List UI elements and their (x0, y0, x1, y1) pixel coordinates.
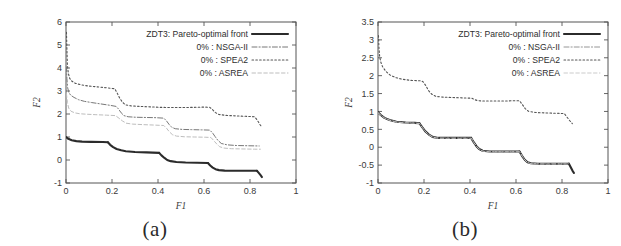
chart-a-plot: 00.20.40.60.81-10123456F1F2ZDT3: Pareto-… (32, 17, 299, 211)
series-line (419, 123, 471, 138)
panel-a: 00.20.40.60.81-10123456F1F2ZDT3: Pareto-… (0, 0, 310, 246)
panel-b-caption: (b) (310, 217, 620, 242)
x-tick-label: 0 (375, 186, 380, 196)
panel-a-caption: (a) (0, 217, 310, 242)
x-tick-label: 0.6 (198, 186, 211, 196)
y-tick-label: 0.5 (361, 125, 374, 135)
series-line (159, 153, 208, 163)
legend-label: 0% : NSGA-II (196, 42, 248, 52)
y-tick-label: 0 (369, 142, 374, 152)
x-tick-label: 0.2 (106, 186, 119, 196)
legend-label: ZDT3: Pareto-optimal front (146, 29, 248, 39)
legend: ZDT3: Pareto-optimal front0% : NSGA-II0%… (146, 29, 288, 78)
x-axis-title: F1 (175, 201, 187, 211)
y-tick-label: 1 (369, 107, 374, 117)
y-tick-label: -1 (54, 178, 62, 188)
y-tick-label: 2.5 (361, 53, 374, 63)
series-line (471, 138, 519, 152)
plot-frame (378, 22, 608, 183)
chart-a-svg: 00.20.40.60.81-10123456F1F2ZDT3: Pareto-… (0, 0, 310, 246)
series-line (378, 112, 569, 164)
y-tick-label: 3.5 (361, 17, 374, 27)
legend-label: 0% : NSGA-II (508, 42, 560, 52)
y-tick-label: 0 (57, 155, 62, 165)
figure-container: 00.20.40.60.81-10123456F1F2ZDT3: Pareto-… (0, 0, 621, 246)
series-line (569, 164, 574, 173)
y-tick-label: -1 (366, 178, 374, 188)
legend-label: 0% : SPEA2 (513, 55, 561, 65)
y-tick-label: 6 (57, 17, 62, 27)
chart-b-plot: 00.20.40.60.81-1-0.500.511.522.533.5F1F2… (344, 17, 611, 211)
x-tick-label: 0.8 (244, 186, 257, 196)
x-tick-label: 1 (293, 186, 298, 196)
x-tick-label: 1 (605, 186, 610, 196)
y-tick-label: 2 (369, 71, 374, 81)
x-tick-label: 0 (63, 186, 68, 196)
x-axis-title: F1 (487, 201, 499, 211)
series-line (208, 163, 257, 171)
y-tick-label: 3 (369, 35, 374, 45)
y-tick-label: 3 (57, 86, 62, 96)
y-axis-title: F2 (344, 97, 354, 109)
y-tick-label: -0.5 (358, 160, 374, 170)
x-tick-label: 0.8 (556, 186, 569, 196)
legend-label: ZDT3: Pareto-optimal front (458, 29, 560, 39)
panel-b: 00.20.40.60.81-1-0.500.511.522.533.5F1F2… (310, 0, 620, 246)
y-tick-label: 1 (57, 132, 62, 142)
y-tick-label: 4 (57, 63, 62, 73)
legend-label: 0% : ASREA (512, 68, 561, 78)
x-tick-label: 0.2 (418, 186, 431, 196)
series-line (66, 137, 108, 142)
x-tick-label: 0.6 (510, 186, 523, 196)
series-line (378, 113, 569, 164)
plot-frame (66, 22, 296, 183)
legend-label: 0% : SPEA2 (201, 55, 249, 65)
x-tick-label: 0.4 (464, 186, 477, 196)
series-line (66, 67, 259, 146)
series-line (257, 171, 262, 177)
y-tick-label: 2 (57, 109, 62, 119)
series-line (108, 142, 159, 153)
legend-label: 0% : ASREA (200, 68, 249, 78)
y-axis-title: F2 (32, 97, 42, 109)
x-tick-label: 0.4 (152, 186, 165, 196)
y-tick-label: 1.5 (361, 89, 374, 99)
y-tick-label: 5 (57, 40, 62, 50)
legend: ZDT3: Pareto-optimal front0% : NSGA-II0%… (458, 29, 600, 78)
chart-b-svg: 00.20.40.60.81-1-0.500.511.522.533.5F1F2… (310, 0, 621, 246)
